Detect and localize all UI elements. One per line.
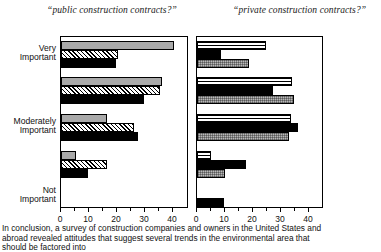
x-axis-tick <box>224 208 225 212</box>
y-axis-tick <box>196 37 197 38</box>
category-label-line: Important <box>0 126 56 135</box>
y-axis-tick <box>196 111 197 112</box>
bar <box>197 95 294 104</box>
bar <box>61 77 162 86</box>
bar <box>197 41 266 50</box>
bar <box>61 169 88 178</box>
x-axis-tick <box>252 208 253 212</box>
y-axis-tick <box>196 148 197 149</box>
chart-title-public: “public construction contracts?” <box>47 5 177 15</box>
category-label-not-important: Not Important <box>0 186 56 205</box>
x-axis-tick <box>308 208 309 212</box>
bar <box>197 198 224 207</box>
bar <box>61 132 138 141</box>
x-axis-tick <box>144 208 145 212</box>
bar <box>61 59 116 68</box>
caption-line: should be factored into <box>2 243 332 252</box>
category-label-line: Important <box>0 53 56 62</box>
bar <box>61 86 160 95</box>
y-axis-tick <box>196 74 197 75</box>
y-axis-tick <box>196 185 197 186</box>
bar <box>61 95 144 104</box>
x-axis-tick <box>88 208 89 212</box>
y-axis-tick <box>60 111 61 112</box>
chart-panel-public: 010203040 <box>60 36 188 208</box>
bar <box>197 169 225 178</box>
bar <box>61 123 134 132</box>
bar <box>197 86 273 95</box>
x-axis-tick <box>60 208 61 212</box>
bar <box>197 160 246 169</box>
bar <box>61 160 107 169</box>
category-label-line: Important <box>0 195 56 204</box>
bar <box>61 114 107 123</box>
chart-title-private: “private construction contracts?” <box>233 5 366 15</box>
figure-container: “public construction contracts?” “privat… <box>0 0 381 252</box>
x-axis-minor-tick <box>210 208 211 211</box>
bar <box>197 123 298 132</box>
x-axis-minor-tick <box>74 208 75 211</box>
bar <box>197 132 289 141</box>
x-axis-minor-tick <box>294 208 295 211</box>
bar <box>61 41 174 50</box>
category-label-moderately-important: Moderately Important <box>0 117 56 136</box>
x-axis-minor-tick <box>130 208 131 211</box>
bar <box>197 77 292 86</box>
bar <box>197 114 291 123</box>
x-axis-minor-tick <box>158 208 159 211</box>
x-axis-tick <box>196 208 197 212</box>
chart-panel-private: 010203040 <box>196 36 323 208</box>
plot-area-private <box>196 36 323 208</box>
bar <box>61 50 118 59</box>
x-axis-tick <box>116 208 117 212</box>
y-axis-tick <box>60 37 61 38</box>
y-axis-tick <box>60 74 61 75</box>
bar <box>61 151 76 160</box>
category-label-very-important: Very Important <box>0 44 56 63</box>
y-axis-tick <box>60 185 61 186</box>
x-axis-tick <box>172 208 173 212</box>
bar <box>197 151 211 160</box>
x-axis-minor-tick <box>238 208 239 211</box>
y-axis-tick <box>60 148 61 149</box>
bar <box>197 50 221 59</box>
bar <box>197 59 249 68</box>
figure-caption: In conclusion, a survey of construction … <box>2 224 332 252</box>
plot-area-public <box>60 36 188 208</box>
x-axis-minor-tick <box>266 208 267 211</box>
x-axis-minor-tick <box>102 208 103 211</box>
x-axis-tick <box>280 208 281 212</box>
